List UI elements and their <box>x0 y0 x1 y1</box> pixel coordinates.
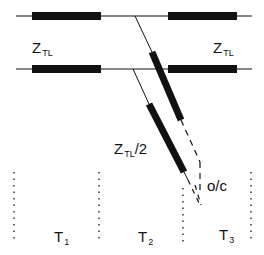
t2-subscript: 2 <box>148 237 153 247</box>
mid-left-tl-segment <box>32 65 101 73</box>
z-tl-left-label: ZTL <box>32 40 53 58</box>
open-circuit-label: o/c <box>207 178 227 193</box>
t2-label: T2 <box>138 229 153 247</box>
lower-branch-dashed-end <box>188 180 200 205</box>
z-symbol: Z <box>32 39 41 56</box>
tl-subscript: TL <box>223 48 234 58</box>
t3-label: T3 <box>219 227 234 245</box>
tl-subscript: TL <box>42 48 53 58</box>
t-symbol: T <box>138 228 147 245</box>
z-tl-half-label: ZTL/2 <box>114 141 147 159</box>
t1-label: T1 <box>54 229 69 247</box>
upper-branch-thin <box>135 16 152 52</box>
top-left-tl-segment <box>32 12 101 20</box>
upper-branch-tl <box>152 52 181 120</box>
z-tl-right-label: ZTL <box>213 40 234 58</box>
t-symbol: T <box>219 226 228 243</box>
z-symbol: Z <box>213 39 222 56</box>
half-suffix: /2 <box>135 140 148 157</box>
lower-branch-thin <box>133 69 149 104</box>
mid-right-tl-segment <box>168 65 237 73</box>
upper-branch-open-dashed <box>181 120 200 162</box>
z-symbol: Z <box>114 140 123 157</box>
lower-branch-thin-end <box>184 172 188 180</box>
t1-subscript: 1 <box>64 237 69 247</box>
tl-subscript: TL <box>124 149 135 159</box>
t-symbol: T <box>54 228 63 245</box>
t3-subscript: 3 <box>229 235 234 245</box>
top-right-tl-segment <box>168 12 237 20</box>
